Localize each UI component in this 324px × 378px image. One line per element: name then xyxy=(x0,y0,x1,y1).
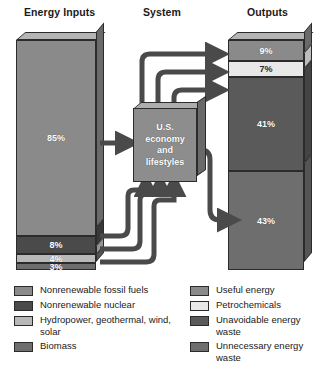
legend-output-item: Petrochemicals xyxy=(190,299,320,311)
column-title-outputs: Outputs xyxy=(247,6,288,18)
energy-output-segment: 9% xyxy=(228,40,304,61)
energy-input-segment-label: 85% xyxy=(47,133,65,143)
energy-input-segment-label: 3% xyxy=(49,262,62,272)
legend-input-swatch xyxy=(14,301,33,311)
energy-output-segment-label: 9% xyxy=(259,46,272,56)
energy-output-segment-side xyxy=(304,59,312,163)
legend-output-swatch xyxy=(190,286,209,296)
energy-output-segment-side xyxy=(304,153,312,262)
legend-output-label: Petrochemicals xyxy=(216,299,281,311)
system-box-side-face xyxy=(197,96,206,176)
legend-outputs: Useful energyPetrochemicalsUnavoidable e… xyxy=(190,284,320,366)
system-box-label: U.S. economy and lifestyles xyxy=(145,122,185,168)
legend-input-label: Hydropower, geothermal, wind, solar xyxy=(40,314,174,337)
legend-output-label: Useful energy xyxy=(216,284,275,296)
energy-input-segment: 85% xyxy=(16,40,96,236)
legend-input-label: Biomass xyxy=(40,340,76,352)
column-title-system: System xyxy=(143,6,181,18)
legend-input-item: Biomass xyxy=(14,340,174,352)
energy-output-segment: 43% xyxy=(228,171,304,270)
energy-input-segment-side xyxy=(96,22,104,228)
energy-inputs-bar: 85%8%4%3% xyxy=(16,40,96,270)
legend-output-swatch xyxy=(190,301,209,311)
energy-input-segment: 3% xyxy=(16,263,96,270)
legend-output-item: Useful energy xyxy=(190,284,320,296)
legend-input-label: Nonrenewable fossil fuels xyxy=(40,284,148,296)
legend-input-item: Nonrenewable nuclear xyxy=(14,299,174,311)
legend-output-swatch xyxy=(190,316,209,326)
system-box: U.S. economy and lifestyles xyxy=(133,108,197,182)
energy-output-segment: 7% xyxy=(228,61,304,77)
legend-output-item: Unnecessary energy waste xyxy=(190,340,320,363)
legend-input-item: Hydropower, geothermal, wind, solar xyxy=(14,314,174,337)
arrow-input-biomass xyxy=(100,186,174,262)
energy-output-top-face xyxy=(228,32,314,40)
legend-output-swatch xyxy=(190,342,209,352)
legend-output-item: Unavoidable energy waste xyxy=(190,314,320,337)
energy-output-segment-label: 43% xyxy=(257,216,275,226)
arrow-input-renewables xyxy=(100,186,160,249)
energy-input-top-face xyxy=(16,32,106,40)
column-title-energy-inputs: Energy Inputs xyxy=(24,6,95,18)
energy-input-segment-label: 8% xyxy=(49,240,62,250)
energy-output-segment-label: 41% xyxy=(257,119,275,129)
arrow-input-nuclear xyxy=(100,186,146,236)
legend-input-swatch xyxy=(14,286,33,296)
energy-output-segment: 41% xyxy=(228,77,304,171)
legend-input-swatch xyxy=(14,316,33,326)
energy-output-segment-label: 7% xyxy=(259,64,272,74)
energy-input-segment: 8% xyxy=(16,236,96,254)
legend-input-item: Nonrenewable fossil fuels xyxy=(14,284,174,296)
outputs-bar: 9%7%41%43% xyxy=(228,40,304,270)
legend-output-label: Unnecessary energy waste xyxy=(216,340,320,363)
legend-input-swatch xyxy=(14,342,33,352)
legend-output-label: Unavoidable energy waste xyxy=(216,314,320,337)
legend-input-label: Nonrenewable nuclear xyxy=(40,299,135,311)
energy-flow-diagram: Energy Inputs System Outputs 85%8%4%3% xyxy=(0,0,324,378)
legend-energy-inputs: Nonrenewable fossil fuelsNonrenewable nu… xyxy=(14,284,174,355)
